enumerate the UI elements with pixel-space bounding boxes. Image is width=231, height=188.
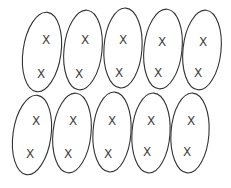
ellipse-outline: [18, 10, 67, 95]
ellipse-group: XX: [129, 92, 172, 174]
ellipse-group: XX: [90, 91, 133, 173]
x-mark: X: [187, 114, 195, 128]
ellipse-group: XX: [60, 8, 106, 92]
x-mark: X: [194, 66, 202, 80]
x-mark: X: [199, 35, 207, 49]
x-mark: X: [115, 66, 123, 80]
x-mark: X: [154, 66, 162, 80]
ellipse-outline: [49, 91, 95, 175]
ellipse-group: XX: [179, 8, 225, 92]
x-mark: X: [69, 114, 77, 128]
x-mark: X: [147, 114, 155, 128]
ellipse-group: XX: [101, 7, 144, 89]
ellipse-group: XX: [168, 92, 211, 174]
x-mark: X: [143, 145, 151, 159]
ellipse-outline: [168, 92, 211, 174]
ellipse-outline: [8, 93, 57, 178]
x-mark: X: [104, 147, 112, 161]
ellipse-group: XX: [18, 10, 67, 95]
ellipse-group: XX: [8, 93, 57, 178]
x-mark: X: [75, 67, 83, 81]
ellipse-outline: [129, 92, 172, 174]
x-mark: X: [108, 114, 116, 128]
ellipse-group: XX: [49, 91, 95, 175]
x-mark: X: [81, 33, 89, 47]
x-mark: X: [183, 145, 191, 159]
x-mark: X: [37, 67, 45, 81]
x-mark: X: [119, 33, 127, 47]
x-mark: X: [64, 147, 72, 161]
ellipse-group: XX: [140, 7, 186, 91]
x-mark: X: [42, 33, 50, 47]
x-mark: X: [26, 147, 34, 161]
x-mark: X: [158, 35, 166, 49]
ellipse-grouping-diagram: XXXXXXXXXXXXXXXXXXXX: [0, 0, 231, 188]
x-mark: X: [32, 114, 40, 128]
